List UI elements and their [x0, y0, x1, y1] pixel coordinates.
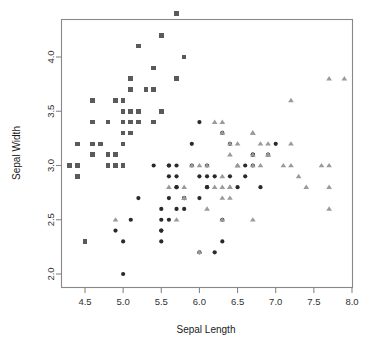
- data-point-virginica: [342, 76, 348, 80]
- x-axis: 4.55.05.56.06.57.07.58.0: [78, 288, 358, 307]
- data-point-virginica: [288, 141, 294, 145]
- data-point-virginica: [288, 98, 294, 102]
- data-point-virginica: [219, 185, 225, 189]
- series-virginica: [113, 76, 348, 254]
- data-point-setosa: [128, 76, 133, 81]
- data-point-setosa: [174, 76, 179, 81]
- data-point-setosa: [121, 120, 126, 125]
- data-point-virginica: [235, 163, 241, 167]
- y-tick-label: 2.5: [45, 213, 56, 226]
- data-point-setosa: [106, 120, 111, 125]
- data-point-virginica: [250, 130, 256, 134]
- data-point-versicolor: [174, 185, 178, 189]
- data-point-versicolor: [113, 229, 117, 233]
- data-point-setosa: [159, 109, 164, 114]
- series-setosa: [67, 11, 186, 243]
- data-point-setosa: [106, 163, 111, 168]
- data-point-versicolor: [258, 185, 262, 189]
- data-point-setosa: [90, 152, 95, 157]
- data-point-versicolor: [121, 239, 125, 243]
- data-point-versicolor: [121, 272, 125, 276]
- x-tick-label: 7.5: [307, 296, 320, 307]
- data-point-versicolor: [136, 196, 140, 200]
- x-tick-label: 7.0: [269, 296, 282, 307]
- data-point-versicolor: [205, 185, 209, 189]
- y-tick-label: 2.0: [45, 267, 56, 280]
- data-point-setosa: [121, 109, 126, 114]
- data-point-setosa: [106, 152, 111, 157]
- data-point-versicolor: [243, 174, 247, 178]
- data-point-setosa: [113, 152, 118, 157]
- data-point-virginica: [219, 195, 225, 199]
- x-tick-label: 6.5: [231, 296, 244, 307]
- data-point-versicolor: [174, 174, 178, 178]
- data-point-setosa: [128, 120, 133, 125]
- data-point-virginica: [219, 119, 225, 123]
- data-point-versicolor: [167, 218, 171, 222]
- data-point-setosa: [121, 131, 126, 136]
- data-point-versicolor: [159, 229, 163, 233]
- data-point-virginica: [280, 163, 286, 167]
- data-point-versicolor: [174, 163, 178, 167]
- data-point-virginica: [258, 163, 264, 167]
- data-point-virginica: [265, 141, 271, 145]
- data-point-virginica: [319, 163, 325, 167]
- data-point-versicolor: [197, 174, 201, 178]
- data-point-setosa: [121, 163, 126, 168]
- data-point-setosa: [159, 33, 164, 38]
- x-axis-title: Sepal Length: [177, 324, 236, 335]
- data-point-setosa: [151, 120, 156, 125]
- data-point-versicolor: [228, 174, 232, 178]
- data-point-versicolor: [182, 207, 186, 211]
- data-points-layer: [67, 11, 347, 276]
- data-point-setosa: [83, 239, 88, 244]
- x-tick-label: 8.0: [345, 296, 358, 307]
- data-point-versicolor: [159, 207, 163, 211]
- y-tick-label: 3.0: [45, 159, 56, 172]
- data-point-virginica: [288, 163, 294, 167]
- data-point-virginica: [113, 217, 119, 221]
- data-point-versicolor: [129, 218, 133, 222]
- plot-frame: [62, 20, 353, 288]
- data-point-setosa: [128, 109, 133, 114]
- data-point-setosa: [113, 98, 118, 103]
- data-point-virginica: [197, 163, 203, 167]
- data-point-versicolor: [167, 174, 171, 178]
- data-point-versicolor: [274, 142, 278, 146]
- data-point-setosa: [75, 142, 80, 147]
- data-point-versicolor: [197, 196, 201, 200]
- data-point-versicolor: [167, 163, 171, 167]
- data-point-virginica: [212, 185, 218, 189]
- data-point-virginica: [212, 119, 218, 123]
- data-point-virginica: [326, 76, 332, 80]
- data-point-setosa: [136, 120, 141, 125]
- data-point-setosa: [121, 98, 126, 103]
- data-point-versicolor: [167, 196, 171, 200]
- y-tick-label: 3.5: [45, 105, 56, 118]
- data-point-virginica: [227, 195, 233, 199]
- data-point-setosa: [136, 44, 141, 49]
- data-point-versicolor: [197, 120, 201, 124]
- data-point-virginica: [326, 163, 332, 167]
- data-point-versicolor: [235, 185, 239, 189]
- data-point-versicolor: [174, 207, 178, 211]
- data-point-virginica: [174, 217, 180, 221]
- data-point-setosa: [182, 55, 187, 60]
- scatter-plot-figure: 4.55.05.56.06.57.07.58.0 2.02.53.03.54.0…: [0, 0, 372, 346]
- data-point-setosa: [151, 87, 156, 92]
- data-point-virginica: [258, 141, 264, 145]
- x-tick-label: 5.0: [117, 296, 130, 307]
- data-point-versicolor: [213, 174, 217, 178]
- data-point-versicolor: [205, 174, 209, 178]
- data-point-versicolor: [190, 142, 194, 146]
- data-point-versicolor: [220, 239, 224, 243]
- data-point-virginica: [204, 206, 210, 210]
- data-point-setosa: [144, 87, 149, 92]
- series-versicolor: [113, 120, 277, 276]
- data-point-virginica: [296, 174, 302, 178]
- data-point-setosa: [75, 163, 80, 168]
- x-tick-label: 6.0: [193, 296, 206, 307]
- data-point-virginica: [326, 185, 332, 189]
- data-point-setosa: [90, 142, 95, 147]
- data-point-virginica: [227, 185, 233, 189]
